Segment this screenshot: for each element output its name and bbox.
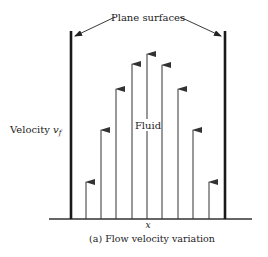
velocity-arrows: [86, 54, 209, 219]
leader-right: [180, 17, 221, 36]
velocity-label: Velocity vf: [9, 124, 63, 137]
caption: (a) Flow velocity variation: [89, 233, 215, 244]
fluid-label: Fluid: [135, 120, 162, 131]
x-axis-label: x: [145, 220, 150, 230]
flow-velocity-diagram: Plane surfaces Fluid Velocity vf x (a) F…: [0, 0, 268, 257]
leader-left: [75, 17, 115, 36]
plane-surfaces-label: Plane surfaces: [111, 12, 185, 23]
